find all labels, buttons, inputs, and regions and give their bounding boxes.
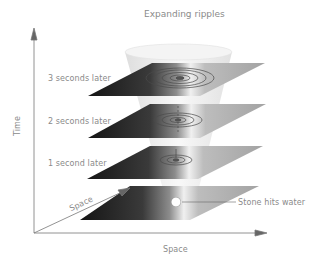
plane-t1: [87, 146, 263, 179]
spacetime-diagram: Expanding ripples 3 seconds later 2 seco…: [0, 0, 312, 265]
layer-label-2s: 2 seconds later: [48, 117, 111, 126]
stone-icon: [171, 197, 181, 207]
diagram-title: Expanding ripples: [144, 9, 225, 19]
time-axis-arrow-icon: [31, 28, 37, 40]
plane-t2: [88, 104, 266, 138]
plane-t3: [88, 63, 265, 96]
space-x-axis-arrow-icon: [255, 230, 267, 236]
space-horizontal-axis-label: Space: [163, 245, 188, 254]
plane-t0: [80, 186, 259, 220]
stone-hits-water-label: Stone hits water: [238, 198, 305, 207]
layer-label-1s: 1 second later: [48, 159, 107, 168]
diagram-graphic: [0, 0, 312, 265]
time-axis-label: Time: [13, 116, 22, 136]
layer-label-3s: 3 seconds later: [48, 74, 111, 83]
